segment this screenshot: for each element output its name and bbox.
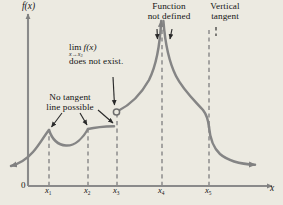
x-tick-label-x3: x3 bbox=[113, 185, 120, 196]
leader-arrow-to-open-circle bbox=[113, 77, 115, 105]
leader-arrow-to-x1 bbox=[52, 113, 63, 127]
curve-segment-x1-to-x2 bbox=[49, 129, 88, 146]
open-circle-discontinuity-x3 bbox=[113, 109, 119, 115]
curve-segment-left-branch bbox=[11, 130, 49, 166]
leader-arrow-to-x2 bbox=[80, 113, 87, 125]
annotation-no-tangent-line2: line possible bbox=[39, 103, 101, 113]
x-axis-label: x bbox=[270, 183, 274, 193]
y-axis-label: f(x) bbox=[22, 1, 35, 11]
annotation-function-not-defined: Function not defined bbox=[139, 2, 199, 22]
limit-subscript: x→x3 bbox=[69, 51, 83, 59]
annotation-limit-dne: lim x→x3 f(x) does not exist. bbox=[69, 43, 123, 67]
annotation-vertical-tangent: Vertical tangent bbox=[202, 2, 248, 22]
curve-segment-asymptote-left-of-x4 bbox=[118, 21, 161, 111]
annotation-vertical-tangent-line2: tangent bbox=[202, 12, 248, 22]
x-tick-label-x5: x5 bbox=[205, 185, 212, 196]
annotation-function-not-defined-line2: not defined bbox=[139, 12, 199, 22]
x-tick-label-x4: x4 bbox=[158, 185, 165, 196]
calculus-derivative-failure-figure: f(x) x 0 x1 x2 x3 x4 x5 No tangent line … bbox=[0, 0, 283, 205]
origin-label: 0 bbox=[21, 180, 26, 190]
x-tick-label-x2: x2 bbox=[84, 185, 91, 196]
leader-arrow-to-x4-left bbox=[157, 29, 158, 39]
annotation-limit-line2: does not exist. bbox=[69, 57, 123, 67]
curve-segment-plateau-x2-x3 bbox=[88, 126, 114, 129]
annotation-no-tangent: No tangent line possible bbox=[39, 93, 101, 113]
leader-arrow-to-x4-right bbox=[170, 29, 172, 39]
curve-segment-tail-right bbox=[209, 127, 255, 165]
limit-function-expr: f(x) bbox=[84, 42, 97, 52]
limit-operator: lim x→x3 bbox=[69, 43, 82, 53]
x-tick-label-x1: x1 bbox=[45, 185, 52, 196]
annotation-limit-expression: lim x→x3 f(x) bbox=[69, 43, 123, 53]
